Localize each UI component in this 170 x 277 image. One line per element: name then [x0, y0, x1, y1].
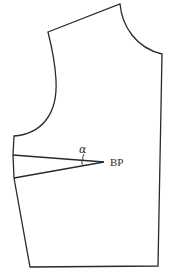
dart-lower-leg: [14, 162, 104, 178]
bodice-outline: [13, 4, 162, 267]
dart-upper-leg: [13, 155, 104, 162]
bust-point-label: BP: [110, 156, 123, 168]
bodice-pattern-diagram: α BP: [0, 0, 170, 277]
angle-label: α: [79, 143, 87, 156]
